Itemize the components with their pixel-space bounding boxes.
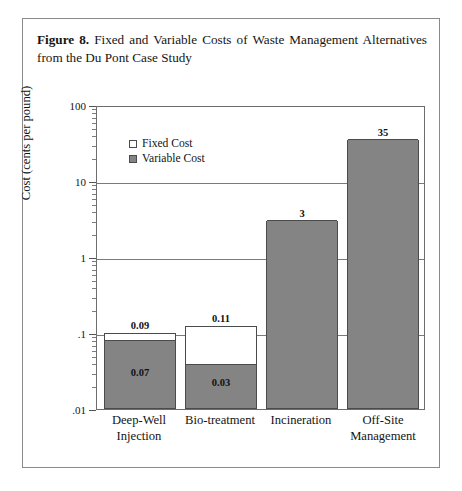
variable-value-label: 0.07 xyxy=(105,367,175,378)
x-axis-label-deep-well-injection: Deep-Well Injection xyxy=(96,412,182,444)
total-value-label-deep-well-injection: 0.09 xyxy=(104,320,176,331)
bar-bio-treatment[interactable]: 0.03 xyxy=(185,326,257,409)
legend-label-variable-cost: Variable Cost xyxy=(142,152,205,167)
variable-value-label: 0.03 xyxy=(186,377,256,388)
legend-label-fixed-cost: Fixed Cost xyxy=(142,137,193,152)
figure-container: Figure 8. Fixed and Variable Costs of Wa… xyxy=(22,18,440,468)
x-label-line1: Deep-Well xyxy=(96,412,182,428)
x-label-line1: Bio-treatment xyxy=(178,412,262,428)
y-tick-label-0.1: .1 xyxy=(78,328,86,340)
y-tick-label-10: 10 xyxy=(75,176,86,188)
x-axis-label-off-site-management: Off-Site Management xyxy=(340,412,426,444)
bar-segment-variable xyxy=(267,220,337,408)
fixed-cost-swatch-icon xyxy=(129,140,137,148)
bar-segment-variable: 0.03 xyxy=(186,364,256,408)
bar-deep-well-injection[interactable]: 0.07 xyxy=(104,333,176,410)
bar-incineration[interactable] xyxy=(266,221,338,409)
y-tick-label-100: 100 xyxy=(70,100,87,112)
chart: Cost (cents per pound) 100 10 1 .1 .01 xyxy=(23,19,441,469)
x-label-line2: Injection xyxy=(96,428,182,444)
legend: Fixed Cost Variable Cost xyxy=(129,137,205,166)
bar-segment-variable: 0.07 xyxy=(105,340,175,408)
y-axis: 100 10 1 .1 .01 xyxy=(23,19,96,469)
bar-off-site-management[interactable] xyxy=(347,140,419,409)
legend-item-fixed-cost: Fixed Cost xyxy=(129,137,205,152)
x-label-line1: Off-Site xyxy=(340,412,426,428)
y-tick-label-1: 1 xyxy=(81,252,87,264)
x-label-line1: Incineration xyxy=(259,412,343,428)
total-value-label-bio-treatment: 0.11 xyxy=(185,313,257,324)
variable-cost-swatch-icon xyxy=(129,155,137,163)
bar-segment-variable xyxy=(348,139,418,408)
y-tick-label-0.01: .01 xyxy=(72,404,86,416)
x-axis-labels: Deep-Well Injection Bio-treatment Incine… xyxy=(96,412,425,462)
x-axis-label-bio-treatment: Bio-treatment xyxy=(178,412,262,428)
x-axis-label-incineration: Incineration xyxy=(259,412,343,428)
x-label-line2: Management xyxy=(340,428,426,444)
total-value-label-incineration: 3 xyxy=(266,208,338,219)
bar-segment-fixed xyxy=(186,327,256,366)
total-value-label-off-site-management: 35 xyxy=(347,127,419,138)
legend-item-variable-cost: Variable Cost xyxy=(129,152,205,167)
plot-area: 0.07 0.09 0.03 0.11 3 35 xyxy=(96,106,425,410)
